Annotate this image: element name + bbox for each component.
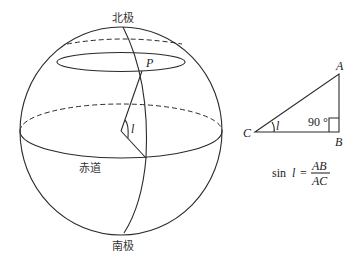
formula-equals: =: [300, 166, 307, 180]
equator-label: 赤道: [79, 161, 101, 175]
latitude-back-arc: [67, 39, 182, 44]
equator-front-arc: [20, 131, 222, 158]
north-pole-label: 北极: [112, 11, 134, 25]
formula-numerator: AB: [311, 159, 327, 173]
right-angle-marker: [329, 118, 339, 132]
formula-variable: l: [292, 166, 296, 180]
equator-back-arc: [20, 104, 222, 131]
sphere-angle-label: l: [131, 122, 135, 136]
triangle-angle-label: l: [276, 119, 280, 133]
vertex-a-label: A: [335, 59, 344, 73]
sine-formula: sin l = AB AC: [272, 159, 330, 188]
vertex-b-label: B: [335, 135, 343, 149]
meridian: [123, 27, 147, 233]
vertex-c-label: C: [243, 126, 252, 140]
latitude-diagram: 北极 南极 赤道 P l A B C l 90 ° sin l = AB AC: [0, 0, 360, 259]
point-p-label: P: [145, 56, 154, 70]
latitude-circle: [57, 53, 185, 72]
formula-sin: sin: [272, 166, 286, 180]
formula-denominator: AC: [311, 174, 328, 188]
south-pole-label: 南极: [112, 239, 134, 253]
right-angle-label: 90 °: [308, 115, 328, 129]
triangle-angle-arc: [272, 122, 274, 132]
